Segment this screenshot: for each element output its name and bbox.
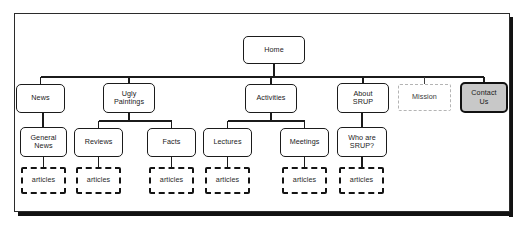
node-ugly-paintings[interactable]: UglyPaintings bbox=[103, 83, 155, 113]
node-articles-lectures[interactable]: articles bbox=[205, 167, 250, 194]
node-facts[interactable]: Facts bbox=[147, 128, 196, 157]
node-activities[interactable]: Activities bbox=[245, 84, 297, 113]
node-articles-facts[interactable]: articles bbox=[149, 167, 194, 194]
node-lectures[interactable]: Lectures bbox=[203, 128, 252, 157]
node-articles-lectures-label: articles bbox=[214, 176, 241, 184]
node-contact-us[interactable]: ContactUs bbox=[460, 82, 508, 113]
node-articles-meetings-label: articles bbox=[291, 176, 318, 184]
node-general-news-label: GeneralNews bbox=[28, 134, 58, 151]
node-articles-facts-label: articles bbox=[158, 176, 185, 184]
node-articles-who-are-srup[interactable]: articles bbox=[339, 167, 384, 194]
node-mission[interactable]: Mission bbox=[398, 84, 451, 111]
node-meetings-label: Meetings bbox=[288, 138, 322, 146]
node-reviews-label: Reviews bbox=[83, 138, 115, 146]
node-articles-general-news-label: articles bbox=[30, 176, 57, 184]
node-articles-general-news[interactable]: articles bbox=[21, 167, 66, 194]
node-lectures-label: Lectures bbox=[211, 138, 243, 146]
node-activities-label: Activities bbox=[254, 94, 287, 102]
node-news-label: News bbox=[29, 94, 51, 102]
node-who-are-srup-label: Who areSRUP? bbox=[346, 134, 378, 151]
node-general-news[interactable]: GeneralNews bbox=[20, 127, 67, 157]
node-news[interactable]: News bbox=[16, 84, 65, 113]
node-articles-meetings[interactable]: articles bbox=[282, 167, 327, 194]
node-ugly-paintings-label: UglyPaintings bbox=[112, 90, 146, 107]
node-about-srup-label: AboutSRUP bbox=[351, 90, 375, 107]
node-mission-label: Mission bbox=[410, 93, 439, 101]
node-facts-label: Facts bbox=[161, 138, 183, 146]
node-contact-us-label: ContactUs bbox=[469, 89, 498, 106]
node-meetings[interactable]: Meetings bbox=[280, 128, 329, 157]
node-who-are-srup[interactable]: Who areSRUP? bbox=[337, 127, 387, 157]
node-articles-reviews[interactable]: articles bbox=[76, 167, 121, 194]
node-articles-reviews-label: articles bbox=[85, 176, 112, 184]
node-home-label: Home bbox=[262, 46, 285, 54]
frame-shadow-bottom bbox=[18, 212, 513, 216]
node-about-srup[interactable]: AboutSRUP bbox=[337, 83, 389, 113]
sitemap-diagram-canvas: Home News UglyPaintings Activities About… bbox=[0, 0, 527, 235]
node-articles-who-are-srup-label: articles bbox=[348, 176, 375, 184]
node-reviews[interactable]: Reviews bbox=[74, 128, 123, 157]
node-home[interactable]: Home bbox=[243, 36, 305, 64]
